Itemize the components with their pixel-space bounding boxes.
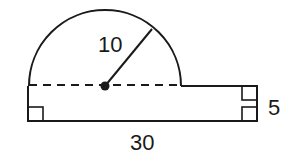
rectangle-outline bbox=[28, 86, 257, 121]
composite-figure-diagram: 10 30 5 bbox=[0, 0, 292, 163]
right-angle-mark-top-right bbox=[242, 86, 257, 100]
height-label: 5 bbox=[268, 95, 280, 120]
radius-label: 10 bbox=[98, 32, 122, 57]
center-point bbox=[101, 82, 110, 91]
right-angle-mark-bottom-right bbox=[242, 107, 257, 121]
length-label: 30 bbox=[130, 130, 154, 155]
right-angle-mark-bottom-left bbox=[28, 107, 43, 121]
